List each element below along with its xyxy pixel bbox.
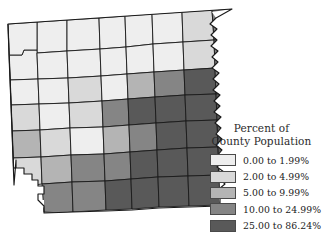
legend-item-label: 0.00 to 1.99% — [243, 155, 309, 166]
legend-swatch-icon — [210, 203, 236, 215]
county-n5 — [152, 12, 183, 44]
county-r2-7 — [183, 40, 215, 70]
county-r7-1 — [42, 182, 73, 213]
county-r5-4 — [103, 125, 130, 154]
county-r2-3 — [67, 49, 101, 78]
county-r6-6 — [157, 148, 188, 177]
legend-swatch-icon — [210, 220, 236, 232]
legend-items: 0.00 to 1.99% 2.00 to 4.99% 5.00 to 9.99… — [205, 152, 323, 234]
county-r7-2 — [72, 181, 106, 212]
county-r2-2 — [37, 51, 68, 79]
legend-row: 0.00 to 1.99% — [205, 152, 323, 168]
county-n4 — [125, 14, 153, 47]
county-r2-4 — [100, 47, 127, 76]
legend-item-label: 10.00 to 24.99% — [243, 204, 321, 215]
county-r4-2 — [39, 103, 70, 130]
county-r7-4 — [131, 177, 159, 209]
county-n6 — [182, 10, 214, 42]
county-r4-4 — [102, 99, 129, 127]
legend-swatch-icon — [210, 154, 236, 166]
county-n3 — [99, 16, 126, 49]
choropleth-map-figure: Percent of County Population 0.00 to 1.9… — [0, 0, 323, 248]
county-n2 — [67, 18, 100, 51]
county-r2-6 — [153, 42, 184, 72]
legend-item-label: 5.00 to 9.99% — [243, 187, 309, 198]
county-r3-2 — [38, 78, 69, 104]
legend-row: 2.00 to 4.99% — [205, 168, 323, 184]
map-legend: Percent of County Population 0.00 to 1.9… — [205, 122, 323, 234]
county-r5-6 — [156, 121, 187, 150]
legend-title-line-1: Percent of — [205, 122, 318, 135]
county-r4-3 — [69, 101, 103, 128]
legend-swatch-icon — [210, 171, 236, 183]
county-r5-3 — [70, 127, 104, 155]
legend-title-line-2: County Population — [205, 135, 318, 148]
county-r3-6 — [154, 70, 185, 97]
county-n1 — [37, 20, 67, 53]
legend-swatch-icon — [210, 187, 236, 199]
county-r6-2 — [41, 155, 72, 184]
legend-row: 10.00 to 24.99% — [205, 201, 323, 217]
county-r3-4 — [101, 74, 128, 101]
county-r7-5 — [158, 176, 189, 207]
county-w-notch-a — [8, 22, 37, 55]
legend-row: 5.00 to 9.99% — [205, 185, 323, 201]
county-r3-1 — [10, 79, 39, 105]
county-r6-3 — [71, 154, 105, 182]
county-r4-1 — [11, 104, 40, 131]
county-r7-3 — [105, 179, 132, 210]
county-r5-5 — [129, 123, 157, 152]
county-r4-5 — [128, 97, 156, 125]
county-polygons — [8, 9, 232, 213]
legend-item-label: 25.00 to 86.24% — [243, 220, 321, 231]
county-r4-6 — [155, 95, 186, 123]
legend-item-label: 2.00 to 4.99% — [243, 171, 309, 182]
county-r3-5 — [127, 72, 155, 99]
map-page: Percent of County Population 0.00 to 1.9… — [0, 0, 323, 248]
county-r5-1 — [12, 130, 41, 158]
county-r2-5 — [126, 44, 154, 74]
county-r3-3 — [68, 76, 102, 103]
county-r3-7 — [184, 68, 216, 95]
county-r4-7 — [185, 94, 217, 121]
county-r6-4 — [104, 152, 131, 181]
county-r6-5 — [130, 150, 158, 179]
legend-row: 25.00 to 86.24% — [205, 218, 323, 234]
legend-title: Percent of County Population — [205, 122, 318, 147]
county-r5-2 — [40, 128, 71, 157]
